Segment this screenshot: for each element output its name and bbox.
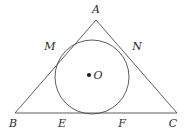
incircle-shape bbox=[55, 40, 129, 114]
geometry-canvas bbox=[0, 0, 193, 134]
center-point-dot bbox=[87, 73, 91, 77]
label-tangent-e: E bbox=[58, 118, 66, 129]
label-tangent-m: M bbox=[44, 41, 55, 52]
label-vertex-c: C bbox=[169, 118, 177, 129]
label-tangent-f: F bbox=[118, 118, 126, 129]
triangle-abc-shape bbox=[15, 20, 177, 113]
label-vertex-b: B bbox=[9, 118, 17, 129]
label-apex-a: A bbox=[92, 4, 100, 15]
label-center-o: O bbox=[93, 70, 102, 81]
label-tangent-n: N bbox=[132, 41, 142, 52]
geometry-figure: A M N O B E F C bbox=[0, 0, 193, 134]
